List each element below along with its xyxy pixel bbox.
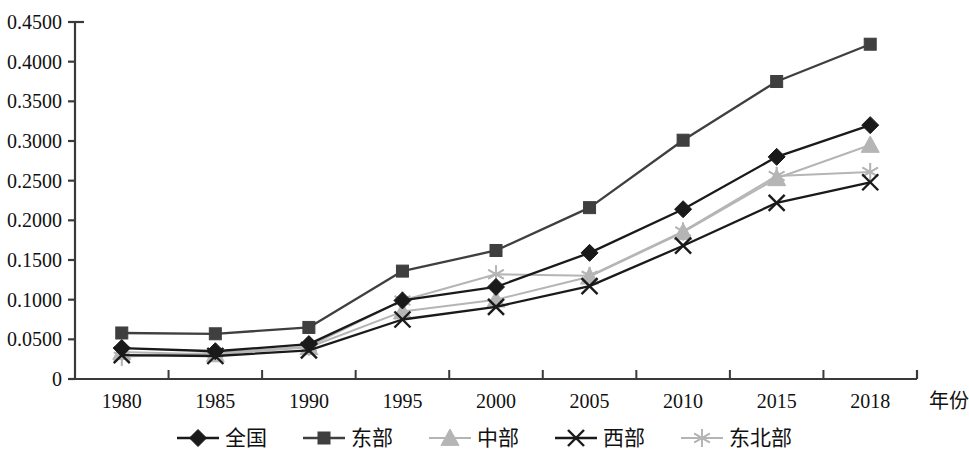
data-point-marker	[488, 278, 505, 295]
square-marker	[301, 427, 347, 449]
x-axis-title: 年份	[929, 391, 969, 411]
x-axis-tick-label: 1980	[72, 391, 172, 411]
data-point-marker	[862, 117, 879, 134]
x-axis-tick-label: 2010	[633, 391, 733, 411]
data-point-marker	[396, 265, 408, 277]
data-point-marker	[581, 244, 598, 261]
legend-item-label: 全国	[225, 427, 267, 449]
x-axis-tick-label: 1990	[259, 391, 359, 411]
data-point-marker	[864, 38, 876, 50]
x-axis-tick-label: 2018	[820, 391, 920, 411]
legend-item-5[interactable]: 东北部	[679, 427, 792, 449]
legend-item-1[interactable]: 全国	[175, 427, 267, 449]
diamond-marker	[175, 427, 221, 449]
triangle-marker	[427, 427, 473, 449]
legend-item-label: 东部	[351, 427, 393, 449]
data-point-marker	[303, 321, 315, 333]
legend-marker-glyph	[318, 432, 330, 444]
series-line	[122, 125, 870, 351]
data-point-marker	[677, 134, 689, 146]
y-axis-tick-label: 0.0500	[0, 329, 62, 349]
data-point-marker	[394, 292, 411, 309]
y-axis-tick-label: 0.1500	[0, 250, 62, 270]
data-point-marker	[584, 202, 596, 214]
series-line	[122, 172, 870, 357]
legend-item-label: 东北部	[729, 427, 792, 449]
y-axis-tick-label: 0.2000	[0, 210, 62, 230]
x-axis-tick-label: 2005	[540, 391, 640, 411]
x-axis-tick-label: 2015	[727, 391, 827, 411]
data-point-marker	[490, 244, 502, 256]
data-point-marker	[861, 136, 879, 152]
chart-series-layer	[113, 38, 879, 366]
data-point-marker	[116, 327, 128, 339]
series-1	[113, 117, 878, 360]
legend-item-label: 中部	[477, 427, 519, 449]
x-axis-tick-label: 1995	[352, 391, 452, 411]
y-axis-tick-label: 0.3500	[0, 91, 62, 111]
y-axis-tick-label: 0.4500	[0, 12, 62, 32]
x-axis-tick-label: 2000	[446, 391, 546, 411]
data-point-marker	[769, 195, 785, 211]
y-axis-tick-label: 0.2500	[0, 171, 62, 191]
data-point-marker	[768, 148, 785, 165]
y-axis-tick-label: 0	[0, 369, 62, 389]
legend-marker-glyph	[189, 429, 206, 446]
asterisk-marker	[679, 427, 725, 449]
chart-legend: 全国东部中部西部东北部	[0, 424, 966, 451]
x-marker	[553, 427, 599, 449]
legend-item-4[interactable]: 西部	[553, 427, 645, 449]
y-axis-tick-label: 0.1000	[0, 290, 62, 310]
legend-item-3[interactable]: 中部	[427, 427, 519, 449]
data-point-marker	[771, 76, 783, 88]
y-axis-tick-label: 0.3000	[0, 131, 62, 151]
series-5	[114, 163, 878, 366]
data-point-marker	[675, 201, 692, 218]
y-axis-tick-label: 0.4000	[0, 52, 62, 72]
legend-item-label: 西部	[603, 427, 645, 449]
x-axis-tick-label: 1985	[165, 391, 265, 411]
legend-item-2[interactable]: 东部	[301, 427, 393, 449]
data-point-marker	[209, 328, 221, 340]
